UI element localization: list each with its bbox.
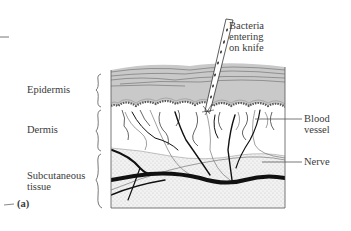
subcutaneous-bracket	[96, 154, 102, 208]
skin-cross-section-figure: Epidermis Dermis Subcutaneous tissue (a)…	[0, 0, 351, 231]
nerve-label: Nerve	[304, 156, 330, 167]
panel-label: (a)	[17, 198, 29, 209]
subcutaneous-label-line2: tissue	[27, 181, 51, 192]
epidermis-bracket	[96, 74, 101, 107]
subcutaneous-label-line1: Subcutaneous	[27, 170, 85, 181]
skin-diagram	[0, 0, 351, 231]
skin-block	[111, 55, 285, 208]
dermis-label: Dermis	[27, 124, 58, 135]
blood-vessel-label-line2: vessel	[304, 124, 330, 135]
dermis-bracket	[96, 110, 101, 151]
knife-callout-line3: on knife	[229, 42, 264, 53]
epidermis-label: Epidermis	[27, 84, 70, 95]
knife-callout-line2: entering	[229, 31, 263, 42]
blood-vessel-label-line1: Blood	[304, 113, 330, 124]
layer-brackets	[96, 74, 102, 208]
knife-callout-line1: Bacteria	[229, 20, 264, 31]
page-edge-mark	[4, 204, 14, 205]
